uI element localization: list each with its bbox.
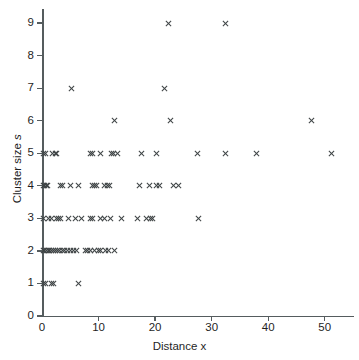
- data-point-x-marker: [78, 215, 85, 222]
- y-axis-title-text: Cluster size: [11, 140, 23, 203]
- data-point-x-marker: [50, 247, 57, 254]
- data-point-x-marker: [143, 215, 150, 222]
- data-point-x-marker: [136, 182, 143, 189]
- y-tick-mark: [37, 315, 42, 316]
- y-tick-label: 1: [20, 277, 34, 289]
- y-axis-title: Cluster size s: [12, 99, 24, 239]
- x-axis-title: Distance x: [0, 341, 359, 353]
- data-point-x-marker: [68, 85, 75, 92]
- y-tick-mark: [37, 55, 42, 56]
- data-point-x-marker: [156, 182, 163, 189]
- y-tick-label: 7: [20, 82, 34, 94]
- data-point-x-marker: [87, 150, 94, 157]
- data-point-x-marker: [93, 182, 100, 189]
- x-axis-line: [42, 316, 354, 318]
- y-tick-mark: [37, 250, 42, 251]
- y-tick-mark: [37, 88, 42, 89]
- data-point-x-marker: [111, 247, 118, 254]
- data-point-x-marker: [45, 247, 52, 254]
- data-point-x-marker: [44, 182, 51, 189]
- data-point-x-marker: [82, 247, 89, 254]
- data-point-x-marker: [53, 215, 60, 222]
- y-tick-mark: [37, 120, 42, 121]
- data-point-x-marker: [97, 215, 104, 222]
- data-point-x-marker: [49, 150, 56, 157]
- y-axis-line: [42, 9, 44, 317]
- data-point-x-marker: [43, 247, 50, 254]
- data-point-x-marker: [52, 150, 59, 157]
- scatter-plot-figure: 0123456789 01020304050 Distance x Cluste…: [0, 0, 359, 360]
- data-point-x-marker: [43, 182, 50, 189]
- data-point-x-marker: [222, 20, 229, 27]
- data-point-x-marker: [153, 150, 160, 157]
- data-point-x-marker: [91, 182, 98, 189]
- data-point-x-marker: [50, 280, 57, 287]
- x-tick-label: 20: [141, 322, 169, 334]
- data-point-x-marker: [46, 247, 53, 254]
- data-point-x-marker: [65, 215, 72, 222]
- caption-strip: [0, 353, 359, 360]
- data-point-x-marker: [59, 182, 66, 189]
- data-point-x-marker: [89, 182, 96, 189]
- data-point-x-marker: [87, 247, 94, 254]
- data-point-x-marker: [153, 182, 160, 189]
- data-point-x-marker: [84, 247, 91, 254]
- data-point-x-marker: [146, 182, 153, 189]
- data-point-x-marker: [108, 150, 115, 157]
- data-point-x-marker: [118, 215, 125, 222]
- data-point-x-marker: [48, 247, 55, 254]
- data-point-x-marker: [101, 182, 108, 189]
- data-point-x-marker: [42, 280, 49, 287]
- y-tick-label: 8: [20, 50, 34, 62]
- data-point-x-marker: [95, 247, 102, 254]
- data-point-x-marker: [106, 182, 113, 189]
- data-point-x-marker: [194, 150, 201, 157]
- data-point-x-marker: [97, 247, 104, 254]
- data-point-x-marker: [165, 20, 172, 27]
- y-tick-label: 2: [20, 245, 34, 257]
- data-point-x-marker: [147, 215, 154, 222]
- data-point-x-marker: [91, 247, 98, 254]
- data-point-x-marker: [134, 215, 141, 222]
- data-point-x-marker: [67, 182, 74, 189]
- data-point-x-marker: [89, 215, 96, 222]
- data-point-x-marker: [89, 150, 96, 157]
- data-point-x-marker: [328, 150, 335, 157]
- data-point-x-marker: [73, 247, 80, 254]
- data-point-x-marker: [53, 150, 60, 157]
- data-point-x-marker: [61, 247, 68, 254]
- data-point-x-marker: [170, 182, 177, 189]
- data-point-x-marker: [195, 215, 202, 222]
- data-point-x-marker: [102, 247, 109, 254]
- data-point-x-marker: [52, 247, 59, 254]
- y-tick-label: 0: [20, 310, 34, 322]
- data-point-x-marker: [110, 150, 117, 157]
- data-point-x-marker: [175, 182, 182, 189]
- x-tick-label: 0: [28, 322, 56, 334]
- data-point-x-marker: [54, 247, 61, 254]
- data-point-x-marker: [105, 247, 112, 254]
- y-axis-title-variable: s: [11, 134, 23, 140]
- data-point-x-marker: [167, 117, 174, 124]
- data-point-x-marker: [253, 150, 260, 157]
- data-point-x-marker: [48, 215, 55, 222]
- plot-area: 0123456789 01020304050: [0, 0, 359, 360]
- x-tick-label: 30: [198, 322, 226, 334]
- data-point-x-marker: [48, 280, 55, 287]
- y-tick-mark: [37, 153, 42, 154]
- y-tick-mark: [37, 218, 42, 219]
- y-tick-mark: [37, 22, 42, 23]
- data-point-x-marker: [64, 247, 71, 254]
- x-tick-label: 10: [85, 322, 113, 334]
- data-point-x-marker: [138, 150, 145, 157]
- y-tick-mark: [37, 185, 42, 186]
- data-point-x-marker: [55, 215, 62, 222]
- data-point-x-marker: [101, 215, 108, 222]
- data-point-x-marker: [70, 247, 77, 254]
- data-point-x-marker: [107, 215, 114, 222]
- data-point-x-marker: [161, 85, 168, 92]
- data-point-x-marker: [75, 280, 82, 287]
- data-point-x-marker: [72, 215, 79, 222]
- x-tick-label: 40: [254, 322, 282, 334]
- y-tick-mark: [37, 283, 42, 284]
